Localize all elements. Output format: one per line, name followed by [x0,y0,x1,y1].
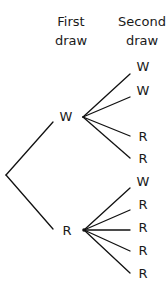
header-first-line1: First [50,14,92,30]
leaf-r-3: R [138,221,147,235]
branch-w-to-w2 [83,97,130,117]
node-first-r: R [62,224,71,238]
node-first-w: W [60,110,73,124]
header-second-draw: Second draw [116,14,168,49]
header-first-draw: First draw [50,14,92,49]
branch-r-to-r4 [84,230,130,273]
header-second-line1: Second [116,14,168,30]
leaf-w-3: R [138,130,147,144]
leaf-r-4: R [138,244,147,258]
leaf-r-1: W [137,175,150,189]
leaf-w-1: W [137,60,150,74]
branch-w-to-r2 [83,117,130,158]
leaf-r-5: R [138,267,147,281]
branch-r-to-w1 [84,188,130,230]
header-first-line2: draw [50,33,92,49]
branch-r-to-r1 [84,210,130,230]
leaf-w-4: R [138,152,147,166]
branch-root-to-r [6,175,53,229]
branch-w-to-w1 [83,74,130,117]
branch-node-dot [82,228,86,232]
leaf-w-2: W [137,84,150,98]
branch-r-to-r3 [84,230,130,251]
branch-root-to-w [6,122,53,175]
header-second-line2: draw [116,33,168,49]
leaf-r-2: R [138,198,147,212]
branch-w-to-r1 [83,117,130,136]
